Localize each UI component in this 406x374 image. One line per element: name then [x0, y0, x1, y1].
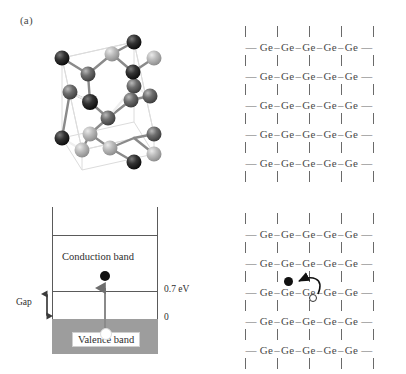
ge-atom: Ge: [324, 157, 337, 169]
vertical-bond: [325, 326, 357, 344]
crystal-atoms: [55, 35, 162, 170]
lattice-bond: –: [273, 257, 281, 269]
lattice-bond: –: [294, 286, 302, 298]
ge-atom: Ge: [345, 286, 358, 298]
ge-atom: Ge: [324, 228, 337, 240]
lattice-edge-bond: —: [358, 41, 375, 53]
vertical-bond: [325, 239, 357, 257]
lattice-edge-bond: —: [358, 128, 375, 140]
vertical-bond: [229, 355, 261, 373]
vertical-bond: [357, 23, 389, 41]
lattice-bond: –: [316, 70, 324, 82]
vertical-bond: [261, 297, 293, 315]
conduction-band-edge-line: [52, 291, 158, 292]
lattice-bond-row: [221, 300, 397, 312]
lattice-bond: –: [337, 157, 345, 169]
vertical-bond: [325, 139, 357, 157]
ge-atom: Ge: [281, 99, 294, 111]
lattice-bond: –: [273, 99, 281, 111]
vertical-bond: [325, 168, 357, 186]
ge-atom: Ge: [260, 228, 273, 240]
ge-atom: Ge: [260, 70, 273, 82]
ge-atom: Ge: [345, 99, 358, 111]
ge-atom: Ge: [260, 315, 273, 327]
lattice-bond: –: [273, 157, 281, 169]
vertical-bond: [229, 268, 261, 286]
lattice-edge-bond: —: [358, 315, 375, 327]
vertical-bond: [261, 81, 293, 99]
vertical-bond: [293, 110, 325, 128]
vertical-bond: [293, 81, 325, 99]
lattice-bond-row: [221, 84, 397, 96]
energy-tick-top: 0.7 eV: [164, 284, 189, 294]
lattice-edge-bond: —: [242, 257, 259, 269]
vertical-bond: [293, 168, 325, 186]
lattice-bond: –: [316, 257, 324, 269]
lattice-bond: –: [273, 344, 281, 356]
lattice-edge-bond: —: [358, 157, 375, 169]
ge-atom: Ge: [260, 41, 273, 53]
lattice-bond: –: [337, 70, 345, 82]
vertical-bond: [325, 268, 357, 286]
semiconductor-figure: (a): [0, 0, 406, 374]
ge-atom: Ge: [324, 344, 337, 356]
lattice-bond: –: [294, 315, 302, 327]
vertical-bond: [293, 268, 325, 286]
vertical-bond: [261, 326, 293, 344]
lattice-bond: –: [273, 228, 281, 240]
vertical-bond: [325, 355, 357, 373]
vertical-bond: [261, 168, 293, 186]
band-diagram: Conduction band Valence band 0.7 eV 0 Ga…: [52, 207, 158, 354]
lattice-bond: –: [316, 315, 324, 327]
vertical-bond: [293, 326, 325, 344]
vertical-bond: [325, 297, 357, 315]
ge-atom: Ge: [324, 41, 337, 53]
lattice-hole-dot: [309, 294, 317, 302]
ge-atom: Ge: [281, 228, 294, 240]
free-electron-dot: [284, 277, 293, 286]
vertical-bond: [261, 355, 293, 373]
lattice-bond: –: [294, 128, 302, 140]
ge-atom: Ge: [260, 286, 273, 298]
vertical-bond: [357, 355, 389, 373]
ge-lattice-diagram: —Ge–Ge–Ge–Ge–Ge——Ge–Ge–Ge–Ge–Ge——Ge–Ge–G…: [221, 26, 397, 176]
lattice-edge-bond: —: [242, 99, 259, 111]
lattice-bond: –: [294, 99, 302, 111]
vertical-bond: [293, 210, 325, 228]
ge-atom: Ge: [345, 41, 358, 53]
ge-atom: Ge: [281, 257, 294, 269]
vertical-bond: [261, 110, 293, 128]
vertical-bond: [229, 110, 261, 128]
lattice-bond: –: [337, 228, 345, 240]
vertical-bond: [261, 139, 293, 157]
ge-lattice-defect-diagram: —Ge–Ge–Ge–Ge–Ge——Ge–Ge–Ge–Ge–Ge——Ge–Ge–G…: [221, 213, 397, 363]
lattice-bond: –: [316, 99, 324, 111]
vertical-bond: [229, 210, 261, 228]
lattice-bond: –: [316, 344, 324, 356]
lattice-edge-bond: —: [358, 344, 375, 356]
ge-atom: Ge: [324, 315, 337, 327]
lattice-bond: –: [316, 41, 324, 53]
lattice-bond: –: [294, 228, 302, 240]
ge-atom: Ge: [345, 315, 358, 327]
lattice-edge-bond: —: [358, 228, 375, 240]
lattice-bond-row: [221, 55, 397, 67]
lattice-edge-bond: —: [358, 99, 375, 111]
vertical-bond: [325, 210, 357, 228]
lattice-bond: –: [273, 41, 281, 53]
ge-atom: Ge: [345, 344, 358, 356]
energy-tick-zero: 0: [164, 312, 169, 322]
vertical-bond: [357, 52, 389, 70]
lattice-edge-bond: —: [358, 286, 375, 298]
ge-atom: Ge: [302, 157, 315, 169]
vertical-bond: [357, 268, 389, 286]
lattice-bond: –: [316, 286, 324, 298]
vertical-bond: [293, 139, 325, 157]
lattice-bond-row: [221, 242, 397, 254]
valence-hole-dot: [100, 328, 112, 340]
vertical-bond: [357, 326, 389, 344]
lattice-bond-row-top: [221, 26, 397, 38]
lattice-edge-bond: —: [358, 70, 375, 82]
lattice-bond: –: [273, 70, 281, 82]
vertical-bond: [357, 81, 389, 99]
